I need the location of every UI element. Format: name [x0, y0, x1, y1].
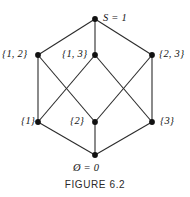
node-s13: [92, 52, 98, 58]
figure-caption: FIGURE 6.2: [0, 179, 190, 190]
node-top: [92, 16, 98, 22]
node-label-s3: {3}: [160, 115, 174, 126]
node-s23: [149, 52, 155, 58]
node-s3: [149, 119, 155, 125]
figure-container: S = 1 {1, 2} {1, 3} {2, 3} {1} {2} {3} Ø…: [0, 0, 190, 197]
node-s2: [92, 119, 98, 125]
node-label-s12: {1, 2}: [2, 48, 27, 59]
node-s1: [35, 119, 41, 125]
edge-s1-bottom: [38, 122, 95, 155]
node-label-s2: {2}: [70, 115, 84, 126]
edge-group: [38, 19, 152, 155]
node-label-s1: {1}: [21, 115, 35, 126]
node-bottom: [92, 152, 98, 158]
edge-s3-bottom: [95, 122, 152, 155]
node-label-top: S = 1: [103, 12, 127, 23]
node-label-bottom: Ø = 0: [73, 162, 99, 173]
node-label-s23: {2, 3}: [159, 48, 184, 59]
node-label-s13: {1, 3}: [62, 48, 87, 59]
edge-top-s23: [95, 19, 152, 55]
node-s12: [35, 52, 41, 58]
